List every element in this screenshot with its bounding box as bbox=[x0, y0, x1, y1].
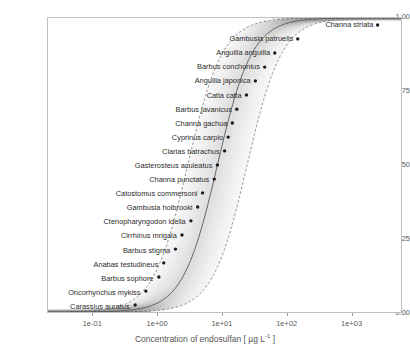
data-point[interactable] bbox=[157, 275, 160, 278]
data-point[interactable] bbox=[254, 79, 257, 82]
data-point[interactable] bbox=[133, 303, 136, 306]
species-label: Catostomus commersoni bbox=[0, 189, 197, 198]
data-point[interactable] bbox=[216, 163, 219, 166]
species-label: Carassius auratus bbox=[0, 301, 130, 310]
species-label: Gambusia holbrooki bbox=[0, 203, 193, 212]
species-label: Barbus conchonius bbox=[0, 62, 260, 71]
species-label: Oncorhynchus mykiss bbox=[0, 287, 140, 296]
species-label: Channa gachua bbox=[0, 118, 227, 127]
x-axis-title-suffix: ] bbox=[270, 334, 275, 344]
x-axis-tick: 1e+00 bbox=[147, 319, 168, 328]
data-point[interactable] bbox=[273, 51, 276, 54]
x-axis-title-text: Concentration of endosulfan [ µg L bbox=[135, 334, 265, 344]
species-label: Ctenopharyngodon idella bbox=[0, 217, 186, 226]
data-point[interactable] bbox=[263, 65, 266, 68]
species-label: Anguilla anguilla bbox=[0, 48, 270, 57]
x-axis-tick: 1e+01 bbox=[211, 319, 232, 328]
data-point[interactable] bbox=[213, 177, 216, 180]
x-tick-mark bbox=[352, 313, 353, 316]
x-axis-tick: 1e-01 bbox=[83, 319, 102, 328]
species-label: Anguilla japonica bbox=[0, 76, 251, 85]
species-label: Channa striata bbox=[0, 20, 373, 29]
species-label: Clarias batrachus bbox=[0, 146, 220, 155]
x-axis-title: Concentration of endosulfan [ µg L-1 ] bbox=[0, 333, 410, 344]
species-label: Barbus sophore bbox=[0, 273, 153, 282]
species-label: Catla catla bbox=[0, 90, 242, 99]
species-label: Barbus stigma bbox=[0, 245, 170, 254]
data-point[interactable] bbox=[245, 93, 248, 96]
data-point[interactable] bbox=[235, 107, 238, 110]
data-point[interactable] bbox=[196, 205, 199, 208]
data-point[interactable] bbox=[201, 191, 204, 194]
data-point[interactable] bbox=[180, 233, 183, 236]
x-tick-mark bbox=[222, 313, 223, 316]
species-label: Gasterosteus aculeatus bbox=[0, 161, 212, 170]
species-label: Barbus javanicus bbox=[0, 104, 232, 113]
ssd-chart: Fraction of species affected 0.000.250.5… bbox=[0, 0, 410, 352]
data-point[interactable] bbox=[376, 23, 379, 26]
species-label: Gambusia patruelis bbox=[0, 34, 293, 43]
data-point[interactable] bbox=[223, 149, 226, 152]
x-tick-mark bbox=[287, 313, 288, 316]
x-tick-mark bbox=[157, 313, 158, 316]
data-point[interactable] bbox=[174, 247, 177, 250]
species-label: Cyprinus carpio bbox=[0, 132, 223, 141]
species-label: Anabas testudineus bbox=[0, 259, 158, 268]
data-point[interactable] bbox=[296, 37, 299, 40]
data-point[interactable] bbox=[144, 289, 147, 292]
x-axis: 1e-011e+001e+011e+021e+03 bbox=[47, 313, 402, 333]
data-point[interactable] bbox=[227, 135, 230, 138]
species-label: Cirrhinus mrigala bbox=[0, 231, 177, 240]
data-point[interactable] bbox=[231, 121, 234, 124]
x-axis-tick: 1e+03 bbox=[341, 319, 362, 328]
x-tick-mark bbox=[92, 313, 93, 316]
species-label: Channa punctatus bbox=[0, 175, 209, 184]
x-axis-tick: 1e+02 bbox=[276, 319, 297, 328]
data-point[interactable] bbox=[162, 261, 165, 264]
data-point[interactable] bbox=[189, 219, 192, 222]
